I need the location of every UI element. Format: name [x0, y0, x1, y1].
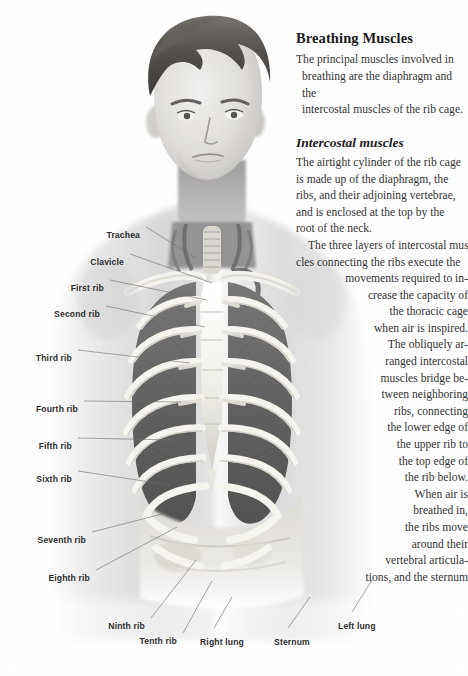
article-heading: Breathing Muscles [296, 30, 468, 47]
body-line: The three layers of intercostal mus- [296, 238, 468, 255]
leader-line [288, 597, 310, 628]
article-subheading: Intercostal muscles [296, 135, 468, 151]
leader-line [78, 438, 174, 440]
label-clavicle: Clavicle [90, 257, 124, 267]
leader-line [110, 280, 207, 300]
intro-line: intercostal muscles of the rib cage. [296, 102, 468, 119]
body-line: ribs, and their adjoining vertebrae, [296, 188, 468, 205]
intro-line: The principal muscles involved in [296, 52, 468, 69]
body-line: the rib below. [296, 470, 468, 487]
body-line: ranged intercostal [296, 354, 468, 371]
label-left-lung: Left lung [338, 621, 376, 631]
label-right-lung: Right lung [200, 637, 244, 647]
body-line: muscles bridge be- [296, 371, 468, 388]
body-line: vertebral articula- [296, 553, 468, 570]
body-line: the top edge of [296, 454, 468, 471]
label-sternum: Sternum [274, 637, 310, 647]
leader-line [151, 560, 196, 618]
label-fifth-rib: Fifth rib [39, 441, 72, 451]
leader-line [84, 401, 181, 402]
body-line: When air is [296, 487, 468, 504]
body-line: The airtight cylinder of the rib cage [296, 155, 468, 172]
label-second-rib: Second rib [54, 309, 100, 319]
body-line: crease the capacity of [296, 288, 468, 305]
label-third-rib: Third rib [36, 353, 72, 363]
leader-line [183, 581, 212, 633]
body-line: is made up of the diaphragm, the [296, 172, 468, 189]
body-line: ribs, connecting [296, 404, 468, 421]
label-seventh-rib: Seventh rib [38, 535, 86, 545]
body-line: the ribs move [296, 520, 468, 537]
body-line: the thoracic cage [296, 304, 468, 321]
label-ninth-rib: Ninth rib [108, 621, 145, 631]
body-line: breathed in, [296, 503, 468, 520]
body-line: the lower edge of [296, 420, 468, 437]
leader-line [78, 350, 190, 363]
leader-line [106, 306, 205, 327]
body-line: root of the neck. [296, 221, 468, 238]
intro-line: breathing are the diaphragm and the [296, 69, 468, 102]
body-line: around their [296, 537, 468, 554]
body-line: tween neighboring [296, 387, 468, 404]
label-first-rib: First rib [71, 283, 104, 293]
body-line: cles connecting the ribs execute the [296, 255, 468, 272]
label-sixth-rib: Sixth rib [36, 474, 72, 484]
label-tenth-rib: Tenth rib [140, 636, 177, 646]
label-eighth-rib: Eighth rib [48, 573, 90, 583]
body-line: tions, and the sternum [296, 570, 468, 587]
leader-line [214, 597, 232, 628]
leader-line [146, 227, 196, 258]
leader-line [92, 513, 166, 532]
body-paragraph: The airtight cylinder of the rib cageis … [296, 155, 468, 586]
leader-line [130, 254, 212, 283]
intro-paragraph: The principal muscles involved inbreathi… [296, 52, 468, 118]
leader-line [78, 471, 170, 485]
leader-line [96, 527, 177, 570]
article-text-column: Breathing Muscles The principal muscles … [296, 30, 468, 586]
body-line: movements required to in- [296, 271, 468, 288]
body-line: The obliquely ar- [296, 337, 468, 354]
label-fourth-rib: Fourth rib [36, 404, 78, 414]
body-line: and is enclosed at the top by the [296, 205, 468, 222]
body-line: the upper rib to [296, 437, 468, 454]
body-line: when air is inspired. [296, 321, 468, 338]
label-trachea: Trachea [106, 230, 140, 240]
anatomy-page: TracheaClavicleFirst ribSecond ribThird … [0, 0, 468, 676]
